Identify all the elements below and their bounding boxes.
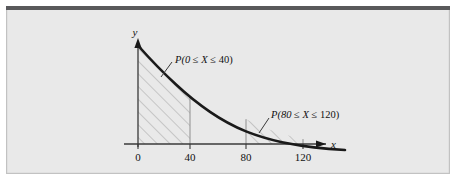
region-1-label-suffix: 40) [216, 54, 233, 66]
x-tick-label-0: 0 [135, 151, 141, 163]
x-tick-label-120: 120 [295, 151, 312, 163]
figure-frame: P(0 ≤ X ≤ 40) P(80 ≤ X ≤ 120) y x 0 40 8… [0, 0, 456, 181]
region-2-label-suffix: 120) [317, 109, 339, 121]
region-2-label-p: P(80 [270, 109, 294, 121]
panel-right-border [449, 10, 450, 174]
y-axis-label: y [132, 26, 138, 38]
panel-left-border [6, 10, 7, 174]
panel-bottom-border [6, 173, 450, 174]
probability-density-figure: P(0 ≤ X ≤ 40) P(80 ≤ X ≤ 120) y x 0 40 8… [0, 0, 456, 181]
x-tick-label-40: 40 [185, 151, 197, 163]
x-tick-label-80: 80 [241, 151, 253, 163]
region-2-label-var: X [300, 109, 312, 120]
panel-background [6, 6, 450, 174]
region-1-label-var: X [199, 54, 211, 65]
region-1-label-p: P(0 [174, 54, 193, 66]
panel-top-border [6, 6, 450, 10]
region-1-label: P(0 ≤ X ≤ 40) [174, 54, 233, 66]
x-axis-label: x [330, 138, 336, 150]
region-2-label: P(80 ≤ X ≤ 120) [270, 109, 340, 121]
